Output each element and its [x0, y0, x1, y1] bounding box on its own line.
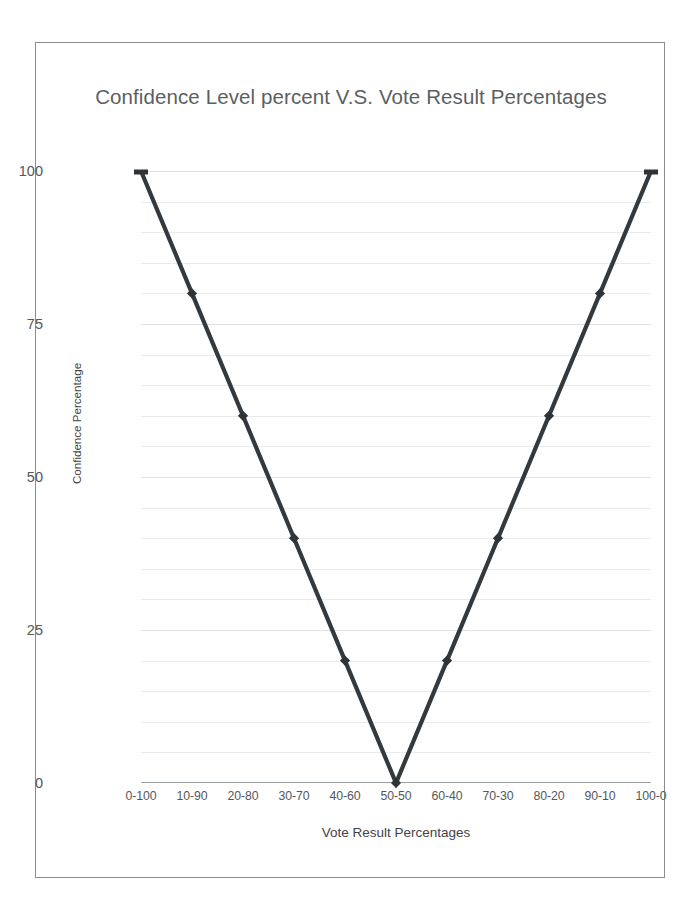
data-point-marker-0-100 [134, 170, 148, 175]
plot-area [141, 171, 651, 783]
series-line-chart [141, 171, 651, 783]
data-point-marker-100-0 [644, 170, 658, 175]
y-tick-label-0: 0 [0, 775, 43, 791]
x-axis-title: Vote Result Percentages [141, 825, 651, 840]
y-tick-label-50: 50 [0, 469, 43, 485]
y-tick-label-75: 75 [0, 316, 43, 332]
y-axis-title: Confidence Percentage [70, 324, 83, 524]
page-frame: Confidence Level percent V.S. Vote Resul… [35, 42, 665, 878]
y-tick-label-100: 100 [0, 163, 43, 179]
chart-container: Confidence Level percent V.S. Vote Resul… [36, 43, 666, 879]
series-line [141, 171, 651, 783]
chart-title: Confidence Level percent V.S. Vote Resul… [76, 81, 626, 112]
x-tick-label-100-0: 100-0 [616, 789, 686, 803]
y-tick-label-25: 25 [0, 622, 43, 638]
